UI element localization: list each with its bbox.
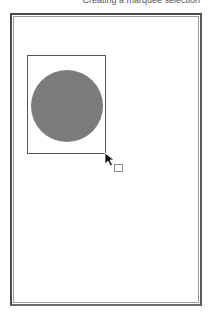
marquee-selection-rectangle[interactable] xyxy=(27,55,106,154)
marquee-square-icon xyxy=(114,164,123,172)
caption-text: Creating a marquee selection xyxy=(82,0,200,5)
